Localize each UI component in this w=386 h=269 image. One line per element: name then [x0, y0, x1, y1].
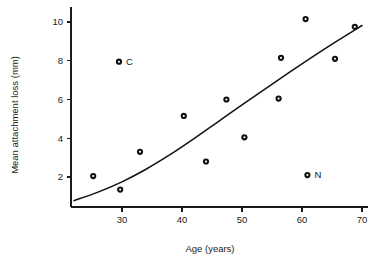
tick-labels-group: 2468103040506070	[52, 16, 367, 225]
data-point-core	[119, 189, 121, 191]
data-point-6	[223, 96, 229, 102]
data-point-C	[116, 59, 122, 65]
data-point-core	[118, 61, 120, 63]
data-point-4	[181, 113, 187, 119]
point-label-C: C	[126, 56, 133, 67]
y-tick-label-2: 2	[58, 171, 63, 182]
data-point-7	[241, 134, 247, 140]
data-point-core	[92, 175, 94, 177]
x-axis-title: Age (years)	[185, 243, 234, 254]
data-point-core	[139, 151, 141, 153]
data-point-core	[278, 97, 280, 99]
x-tick-label-70: 70	[357, 214, 368, 225]
data-point-12	[332, 56, 338, 62]
data-point-core	[243, 136, 245, 138]
ticks-group	[67, 22, 362, 212]
data-point-core	[354, 26, 356, 28]
data-point-8	[276, 95, 282, 101]
y-tick-label-10: 10	[52, 16, 63, 27]
scatter-plot-figure: 2468103040506070 CN Mean attachment loss…	[0, 0, 386, 269]
data-points-group	[90, 16, 358, 193]
point-label-N: N	[314, 169, 321, 180]
x-tick-label-50: 50	[237, 214, 248, 225]
x-tick-label-60: 60	[297, 214, 308, 225]
data-point-core	[280, 57, 282, 59]
y-tick-label-8: 8	[58, 55, 63, 66]
data-point-9	[278, 55, 284, 61]
x-tick-label-30: 30	[117, 214, 128, 225]
data-point-core	[306, 174, 308, 176]
data-point-1	[117, 186, 123, 192]
data-point-N	[304, 172, 310, 178]
data-point-3	[137, 149, 143, 155]
data-point-core	[225, 98, 227, 100]
data-point-5	[203, 158, 209, 164]
data-point-13	[352, 24, 358, 30]
data-point-0	[90, 173, 96, 179]
y-tick-label-6: 6	[58, 94, 63, 105]
data-point-10	[303, 16, 309, 22]
data-point-core	[305, 18, 307, 20]
x-tick-label-40: 40	[177, 214, 188, 225]
axes-group	[71, 7, 368, 208]
plot-canvas: 2468103040506070 CN Mean attachment loss…	[0, 0, 386, 269]
data-point-core	[334, 58, 336, 60]
y-tick-label-4: 4	[58, 133, 63, 144]
y-axis-title: Mean attachment loss (mm)	[9, 56, 20, 174]
data-point-core	[205, 160, 207, 162]
data-point-core	[183, 115, 185, 117]
